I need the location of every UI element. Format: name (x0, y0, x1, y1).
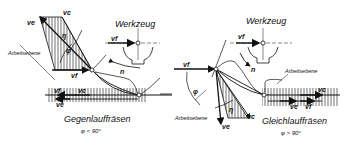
right-workpiece (262, 74, 340, 106)
n-label: n (120, 68, 124, 75)
ve-label: ve (222, 123, 230, 130)
plane-label-left: Arbeitsebene (175, 116, 207, 122)
vc-right-label: vc (318, 86, 326, 93)
vf-tool-label: vf (111, 35, 117, 42)
plane-label: Arbeitsebene (8, 51, 40, 57)
left-tool (105, 28, 160, 68)
vf-label: vf (183, 61, 189, 68)
vf-label: vf (71, 72, 77, 79)
right-velocity-triangle (160, 40, 250, 124)
title: Gegenlauffräsen (64, 115, 131, 124)
vf-right-label: vf (305, 103, 311, 110)
vc-label: vc (63, 9, 71, 16)
vc-label: vc (247, 113, 255, 120)
condition: φ < 90° (81, 128, 101, 134)
phi-label: φ (193, 88, 198, 95)
n-label: n (251, 66, 255, 73)
ve-bottom-label: ve (56, 101, 64, 108)
tool-label: Werkzeug (246, 17, 286, 26)
eta-label: η (62, 32, 66, 39)
phi-label: φ (66, 47, 71, 54)
plane-label-top: Arbeitsebene (285, 69, 317, 75)
vc-bottom-label: vc (78, 87, 86, 94)
condition: φ > 90° (281, 130, 301, 136)
milling-diagram: ve vc vf η φ Arbeitsebene Werkzeug vf n … (0, 0, 346, 148)
tool-label: Werkzeug (115, 20, 155, 29)
vf-bottom-label: vf (54, 87, 60, 94)
ve-label: ve (27, 19, 35, 26)
title: Gleichlauffräsen (262, 117, 327, 126)
left-velocity-triangle (20, 17, 92, 80)
ve-right-label: ve (290, 103, 298, 110)
eta-label: η (229, 106, 233, 113)
vf-tool-label: vf (238, 33, 244, 40)
left-workpiece (45, 88, 172, 102)
